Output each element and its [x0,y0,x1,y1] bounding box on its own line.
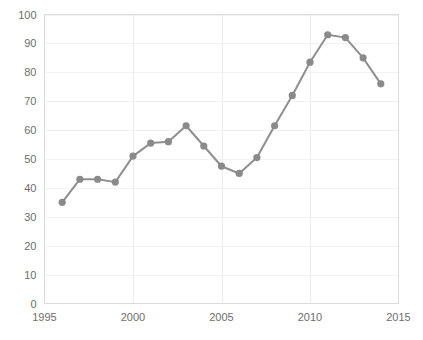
y-axis-tick-label: 40 [24,182,36,194]
y-axis-tick-label: 0 [30,298,36,310]
data-point-marker [59,199,66,206]
data-point-marker [129,153,136,160]
data-point-marker [147,140,154,147]
y-axis-tick-label: 30 [24,211,36,223]
data-point-marker [324,31,331,38]
y-axis-tick-label: 20 [24,240,36,252]
data-point-marker [253,154,260,161]
data-point-marker [236,170,243,177]
data-point-marker [200,142,207,149]
data-point-marker [271,122,278,129]
y-axis-tick-label: 90 [24,37,36,49]
y-axis-tick-label: 70 [24,95,36,107]
data-point-marker [360,54,367,61]
data-point-marker [112,179,119,186]
y-axis-tick-label: 60 [24,124,36,136]
chart-background [0,0,423,340]
data-point-marker [94,176,101,183]
x-axis-tick-label: 1995 [32,311,56,323]
data-point-marker [218,163,225,170]
data-point-marker [183,122,190,129]
y-axis-tick-label: 80 [24,66,36,78]
y-axis-tick-label: 50 [24,153,36,165]
x-axis-tick-label: 2005 [209,311,233,323]
x-axis-tick-label: 2015 [386,311,410,323]
data-point-marker [289,92,296,99]
chart-canvas: 0102030405060708090100 19952000200520102… [0,0,423,340]
data-point-marker [342,34,349,41]
line-chart-figure: 0102030405060708090100 19952000200520102… [0,0,423,340]
y-axis-tick-label: 10 [24,269,36,281]
x-axis-tick-label: 2010 [298,311,322,323]
data-point-marker [377,80,384,87]
data-point-marker [76,176,83,183]
x-axis-tick-label: 2000 [121,311,145,323]
data-point-marker [306,59,313,66]
y-axis-tick-label: 100 [18,9,36,21]
data-point-marker [165,138,172,145]
